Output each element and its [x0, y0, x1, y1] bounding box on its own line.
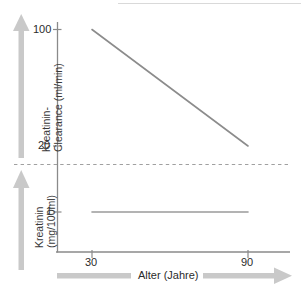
x-axis-title: Alter (Jahre) [134, 269, 203, 281]
x-tick-label-30: 30 [85, 256, 97, 268]
upper-y-axis-title-line1: Kreatinin- [41, 107, 52, 152]
creatinine-clearance-age-figure: 100 20 1 30 90 Kreatinin- Clearance (ml/… [0, 0, 301, 294]
clearance-decline-line [92, 30, 248, 147]
upper-direction-arrow-icon [13, 14, 30, 158]
lower-direction-arrow-icon [13, 170, 30, 270]
lower-y-axis-title-line1: Kreatinin [34, 207, 45, 248]
y-tick-label-100: 100 [33, 23, 51, 35]
lower-y-axis-title-line2: (mg/100ml) [46, 195, 57, 248]
upper-y-axis-title-line2: Clearance (ml/min) [53, 63, 64, 152]
x-tick-label-90: 90 [241, 256, 253, 268]
